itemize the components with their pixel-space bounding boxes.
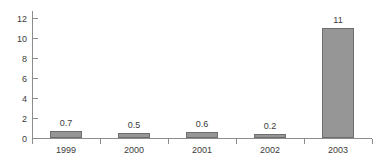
- y-axis-tick-label: 10: [17, 34, 27, 43]
- y-axis-tick-label: 12: [17, 14, 27, 23]
- x-axis-label-2003: 2003: [313, 145, 363, 155]
- y-axis-tick-label: 4: [22, 94, 27, 103]
- y-axis-tick: [33, 118, 38, 119]
- x-axis-line: [32, 138, 372, 139]
- x-axis-tick: [168, 139, 169, 144]
- y-axis-line: [32, 11, 33, 139]
- x-axis-label-2002: 2002: [245, 145, 295, 155]
- y-axis-tick-label: 8: [22, 54, 27, 63]
- y-axis-tick: [33, 98, 38, 99]
- y-axis-tick: [33, 78, 38, 79]
- bar-value-label-1999: 0.7: [41, 119, 91, 128]
- y-axis-tick-label: 6: [22, 74, 27, 83]
- x-axis-tick: [236, 139, 237, 144]
- bar-2003: [322, 28, 354, 138]
- x-axis-tick: [32, 139, 33, 144]
- x-axis-label-1999: 1999: [41, 145, 91, 155]
- bar-value-label-2000: 0.5: [109, 121, 159, 130]
- bar-2000: [118, 133, 150, 138]
- x-axis-tick: [372, 139, 373, 144]
- y-axis-tick-label: 0: [22, 134, 27, 143]
- y-axis-tick: [33, 58, 38, 59]
- bar-2001: [186, 132, 218, 138]
- x-axis-label-2001: 2001: [177, 145, 227, 155]
- x-axis-label-2000: 2000: [109, 145, 159, 155]
- bar-value-label-2003: 11: [313, 16, 363, 25]
- bar-chart: 024681012 0.70.50.60.211 199920002001200…: [0, 0, 380, 162]
- x-axis-tick: [100, 139, 101, 144]
- bar-value-label-2002: 0.2: [245, 122, 295, 131]
- x-axis-tick: [304, 139, 305, 144]
- bar-value-label-2001: 0.6: [177, 120, 227, 129]
- bar-1999: [50, 131, 82, 138]
- y-axis-tick: [33, 38, 38, 39]
- y-axis-tick-label: 2: [22, 114, 27, 123]
- y-axis-tick: [33, 18, 38, 19]
- bar-2002: [254, 134, 286, 138]
